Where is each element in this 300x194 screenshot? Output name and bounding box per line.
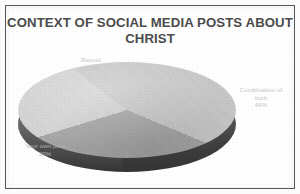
pie-label-combination-name-line-2: both bbox=[228, 94, 294, 102]
chart-figure: CONTEXT OF SOCIAL MEDIA POSTS ABOUT CHRI… bbox=[0, 0, 300, 194]
plot-area: Repost 15% Combination of both 46% Your … bbox=[6, 42, 295, 189]
pie-label-your-own-post-value: 39% bbox=[8, 150, 82, 158]
pie-label-repost-name: Repost bbox=[81, 56, 101, 63]
chart-title-line-1: CONTEXT OF SOCIAL MEDIA POSTS ABOUT bbox=[7, 15, 293, 30]
pie-label-combination-of-both: Combination of both 46% bbox=[228, 86, 294, 109]
pie-label-combination-name-line-1: Combination of bbox=[240, 86, 282, 93]
pie-label-your-own-post-name: Your own post bbox=[25, 142, 65, 149]
pie-label-repost: Repost 15% bbox=[62, 56, 120, 71]
pie-label-combination-value: 46% bbox=[228, 101, 294, 109]
pie-label-repost-value: 15% bbox=[62, 64, 120, 72]
chart-frame: CONTEXT OF SOCIAL MEDIA POSTS ABOUT CHRI… bbox=[5, 5, 295, 189]
pie-label-your-own-post: Your own post 39% bbox=[8, 142, 82, 157]
